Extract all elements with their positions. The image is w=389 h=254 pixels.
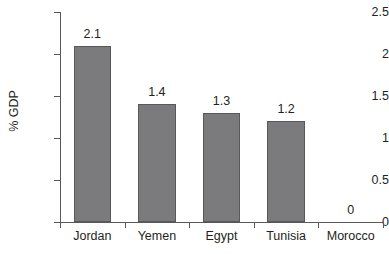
x-axis-line — [60, 222, 383, 223]
bar-value-label: 0 — [347, 203, 354, 217]
bar-chart: % GDP 00.511.522.5 2.11.41.31.20 JordanY… — [0, 0, 389, 254]
x-axis-tick — [254, 222, 255, 228]
bar-value-label: 1.2 — [277, 102, 294, 116]
x-axis-tick — [189, 222, 190, 228]
x-axis-tick — [125, 222, 126, 228]
bar — [267, 121, 304, 222]
bar — [138, 104, 175, 222]
x-axis-category-label: Yemen — [138, 229, 176, 243]
y-axis-title: % GDP — [7, 71, 21, 151]
bar — [203, 113, 240, 222]
x-axis-tick — [318, 222, 319, 228]
plot-area — [60, 12, 383, 222]
x-axis-category-label: Tunisia — [266, 229, 306, 243]
bar-value-label: 1.4 — [148, 85, 165, 99]
bar-value-label: 1.3 — [213, 94, 230, 108]
x-axis-tick — [60, 222, 61, 228]
x-axis-category-label: Morocco — [327, 229, 375, 243]
x-axis-category-label: Egypt — [206, 229, 238, 243]
x-axis-tick — [383, 222, 384, 228]
bar-value-label: 2.1 — [84, 27, 101, 41]
bar — [74, 46, 111, 222]
x-axis-category-label: Jordan — [73, 229, 111, 243]
